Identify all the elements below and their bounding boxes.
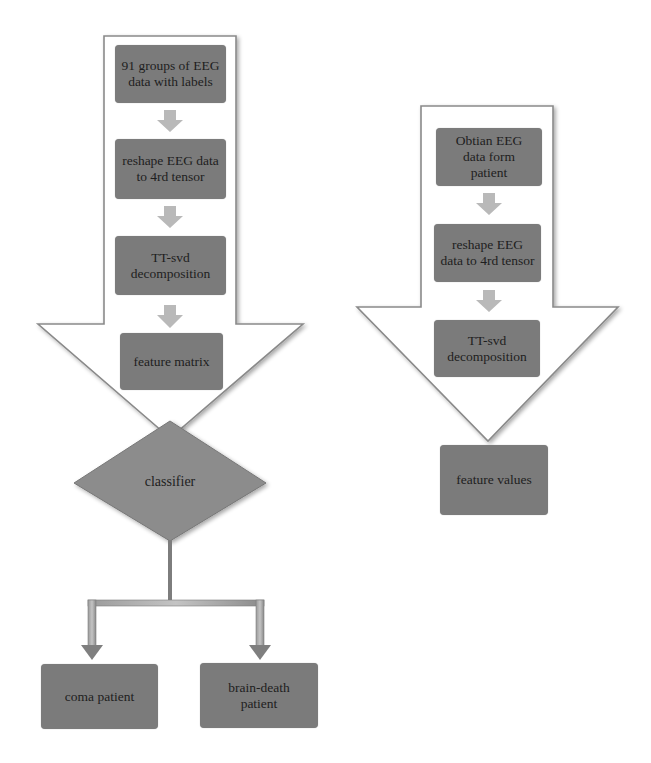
step-node: TT-svd decomposition [115, 236, 226, 295]
step-node: TT-svd decomposition [434, 320, 540, 377]
outcome-label: brain-death patient [222, 680, 296, 712]
step-node: feature matrix [120, 333, 223, 390]
outcome-label: coma patient [65, 689, 134, 705]
step-label: TT-svd decomposition [440, 333, 534, 365]
step-label: Obtian EEG data form patient [448, 133, 530, 181]
outcome-node: brain-death patient [200, 663, 318, 728]
branch-connector [81, 540, 271, 660]
output-node: feature values [440, 445, 548, 515]
down-arrow-icon [249, 645, 271, 660]
step-node: 91 groups of EEG data with labels [115, 45, 226, 103]
step-label: feature matrix [133, 354, 209, 370]
step-node: reshape EEG data to 4rd tensor [434, 224, 541, 282]
down-arrow-icon [81, 645, 103, 660]
step-label: 91 groups of EEG data with labels [121, 58, 220, 90]
step-label: TT-svd decomposition [121, 250, 220, 282]
diagram-canvas [0, 0, 651, 763]
step-node: reshape EEG data to 4rd tensor [115, 139, 226, 199]
outcome-node: coma patient [41, 664, 158, 729]
step-label: reshape EEG data to 4rd tensor [121, 153, 220, 185]
output-label: feature values [456, 472, 531, 488]
step-label: reshape EEG data to 4rd tensor [440, 237, 535, 269]
decision-label: classifier [110, 474, 230, 490]
step-node: Obtian EEG data form patient [436, 128, 542, 186]
